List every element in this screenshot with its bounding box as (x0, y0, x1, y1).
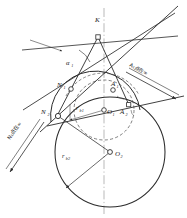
label-alpha1: α (66, 59, 70, 66)
point-O2[interactable] (108, 150, 113, 155)
figure-background (0, 0, 187, 218)
label-N2-sub: 2 (47, 112, 49, 117)
label-A1: A (110, 80, 116, 88)
point-N2[interactable] (55, 113, 60, 118)
point-A1[interactable] (111, 88, 116, 93)
label-rb1-sub: b1 (80, 108, 84, 113)
label-O2: O (115, 150, 120, 158)
point-O1[interactable] (102, 108, 107, 113)
label-A1-sub: 1 (117, 84, 119, 89)
point-N1[interactable] (69, 87, 74, 92)
label-alpha1-sub: 1 (71, 63, 73, 68)
point-K[interactable] (96, 35, 100, 39)
label-N1: N (56, 81, 62, 89)
label-A2-sub: 2 (126, 112, 128, 117)
geometry-figure: K N 1 N 2 A 1 A 2 O 1 O 2 α 1 r b1 r b2 … (0, 0, 187, 218)
label-N1-sub: 1 (63, 85, 65, 90)
label-O2-sub: 2 (120, 154, 122, 159)
label-O1-sub: 1 (112, 112, 114, 117)
label-A2: A (119, 108, 125, 116)
label-N2: N (40, 108, 46, 116)
point-A2[interactable] (127, 103, 131, 107)
label-rb2-sub: b2 (66, 156, 70, 161)
label-K: K (94, 16, 100, 24)
label-O1: O (107, 108, 112, 116)
